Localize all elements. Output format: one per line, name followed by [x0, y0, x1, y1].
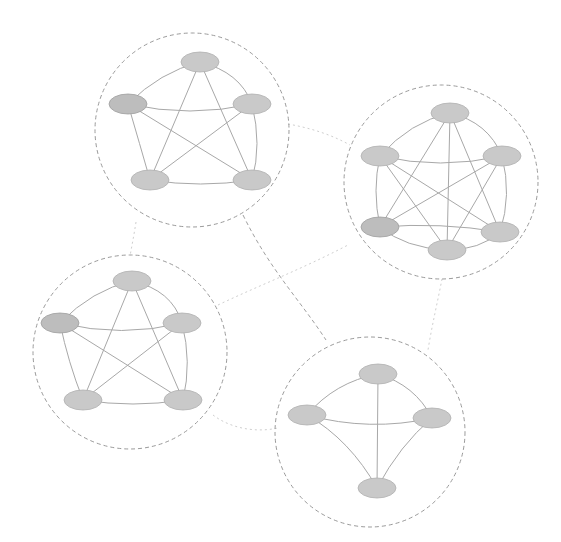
- node[interactable]: [483, 146, 521, 166]
- node[interactable]: [164, 390, 202, 410]
- edges-bottom-right: [307, 374, 432, 488]
- node[interactable]: [113, 271, 151, 291]
- node[interactable]: [361, 146, 399, 166]
- node[interactable]: [358, 478, 396, 498]
- node[interactable]: [359, 364, 397, 384]
- node[interactable]: [413, 408, 451, 428]
- link-bottomleft-bottomright: [213, 415, 278, 430]
- node[interactable]: [233, 94, 271, 114]
- node[interactable]: [361, 217, 399, 237]
- node[interactable]: [181, 52, 219, 72]
- node[interactable]: [428, 240, 466, 260]
- inter-community-links: [130, 124, 442, 430]
- node[interactable]: [64, 390, 102, 410]
- node[interactable]: [288, 405, 326, 425]
- link-topleft-bottomleft: [130, 222, 136, 256]
- node[interactable]: [431, 103, 469, 123]
- nodes-bottom-right: [288, 364, 451, 498]
- link-topleft-right: [288, 124, 350, 145]
- nodes-right: [361, 103, 521, 260]
- node[interactable]: [481, 222, 519, 242]
- community-graph-diagram: [0, 0, 561, 542]
- node[interactable]: [131, 170, 169, 190]
- node[interactable]: [41, 313, 79, 333]
- edges-bottom-left: [60, 281, 187, 404]
- edges-top-left: [128, 62, 257, 184]
- node[interactable]: [109, 94, 147, 114]
- link-topleft-bottomright: [243, 215, 326, 340]
- node[interactable]: [233, 170, 271, 190]
- link-right-bottomright: [428, 279, 442, 350]
- node[interactable]: [163, 313, 201, 333]
- link-bottomleft-right: [218, 245, 348, 305]
